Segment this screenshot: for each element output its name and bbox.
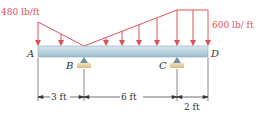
point-label-b: B	[65, 60, 73, 71]
dimension-ab: 3 ft	[51, 92, 67, 102]
beam	[38, 46, 208, 57]
point-label-c: C	[159, 60, 167, 71]
support-c	[170, 57, 184, 68]
load-label-right: 600 lb/ ft	[212, 20, 254, 30]
dimension-cd: 2 ft	[184, 102, 200, 112]
support-b	[77, 57, 91, 68]
distributed-load	[35, 10, 211, 46]
load-label-left: 480 lb/ft	[1, 7, 40, 17]
beam-diagram: 480 lb/ft 600 lb/ ft A B C D	[0, 0, 259, 114]
point-label-a: A	[26, 48, 34, 59]
dimension-bc: 6 ft	[121, 92, 137, 102]
point-label-d: D	[210, 48, 219, 59]
